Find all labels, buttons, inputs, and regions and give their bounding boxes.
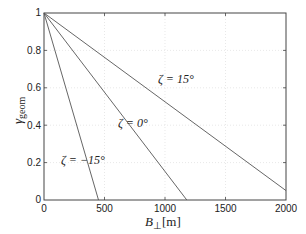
x-tick-label: 2000 [275, 203, 298, 214]
y-tick-label: 0.2 [27, 157, 41, 168]
y-tick-label: 0.6 [27, 82, 41, 93]
y-tick-label: 0.8 [27, 45, 41, 56]
x-tick-label: 1000 [154, 203, 177, 214]
annotation-zeta-15: ζ = 15° [158, 72, 194, 86]
y-axis-label: γgeom [10, 96, 27, 124]
x-tick-label: 500 [96, 203, 113, 214]
y-tick-label: 0 [35, 194, 41, 205]
y-tick-label: 0.4 [27, 120, 41, 131]
annotation-zeta-0: ζ = 0° [118, 116, 148, 130]
chart: 0 500 1000 1500 2000 0 0.2 0.4 0.6 0.8 1… [0, 0, 306, 234]
x-axis-label: B⊥[m] [145, 214, 181, 231]
x-tick-label: 1500 [214, 203, 237, 214]
series-zeta-0 [44, 13, 187, 200]
series-zeta-minus15 [44, 13, 99, 200]
x-tick-label: 0 [41, 203, 47, 214]
y-tick-label: 1 [35, 7, 41, 18]
annotation-zeta-minus15: ζ = −15° [61, 153, 105, 167]
